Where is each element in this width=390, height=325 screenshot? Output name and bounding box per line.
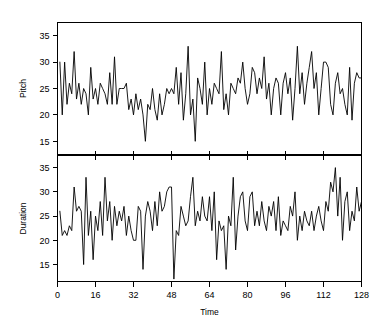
x-axis-title: Time: [200, 307, 219, 317]
duration-x-tick-labels: 0163248648096112128: [55, 290, 369, 300]
pitch-y-tick-label: 20: [39, 110, 49, 120]
panel-pitch: 1520253035 Pitch: [18, 23, 362, 160]
two-panel-timeseries-figure: 1520253035 Pitch 1520253035 016324864809…: [0, 0, 390, 325]
pitch-y-tick-label: 30: [39, 57, 49, 67]
pitch-axis-title: Pitch: [18, 79, 28, 98]
x-tick-label: 96: [280, 290, 290, 300]
panel-duration: 1520253035 0163248648096112128 Duration …: [18, 151, 369, 317]
x-tick-label: 112: [316, 290, 330, 300]
duration-y-tick-label: 25: [39, 211, 49, 221]
duration-y-tick-label: 30: [39, 187, 49, 197]
x-tick-label: 48: [166, 290, 176, 300]
pitch-series-line: [60, 46, 362, 141]
pitch-y-tick-labels: 1520253035: [39, 31, 49, 147]
pitch-y-tick-label: 15: [39, 137, 49, 147]
x-tick-label: 128: [354, 290, 369, 300]
duration-y-tick-label: 20: [39, 236, 49, 246]
pitch-y-axis-ticks: [53, 36, 58, 142]
x-tick-label: 0: [55, 290, 60, 300]
duration-axis-title: Duration: [18, 202, 28, 234]
duration-y-tick-labels: 1520253035: [39, 163, 49, 270]
duration-y-axis-ticks: [53, 168, 58, 265]
duration-series-line: [60, 168, 362, 279]
x-tick-label: 64: [204, 290, 214, 300]
x-tick-label: 16: [90, 290, 100, 300]
duration-y-tick-label: 15: [39, 260, 49, 270]
pitch-y-tick-label: 25: [39, 84, 49, 94]
x-tick-label: 80: [242, 290, 252, 300]
chart-page: 1520253035 Pitch 1520253035 016324864809…: [0, 0, 390, 325]
x-tick-label: 32: [128, 290, 138, 300]
pitch-y-tick-label: 35: [39, 31, 49, 41]
duration-y-tick-label: 35: [39, 163, 49, 173]
